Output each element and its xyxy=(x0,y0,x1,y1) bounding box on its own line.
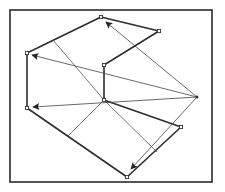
connector-line-1 xyxy=(68,100,104,136)
vertex-center xyxy=(102,98,105,101)
vertex-inner xyxy=(102,63,105,66)
connector-line-0 xyxy=(53,40,104,100)
vertex-top-right xyxy=(157,29,160,32)
connector-lines xyxy=(53,40,157,152)
diagram-frame xyxy=(10,10,212,182)
vertex-bottom-left xyxy=(25,106,28,109)
closed-polygon-path xyxy=(27,17,181,177)
arrow-to-bottom-left xyxy=(33,97,197,107)
connector-line-2 xyxy=(104,100,157,152)
vertex-right xyxy=(179,125,182,128)
diagram-canvas xyxy=(0,0,225,192)
arrow-to-left xyxy=(32,55,197,97)
vertex-top xyxy=(99,15,102,18)
vertex-left xyxy=(25,51,28,54)
vertex-bottom xyxy=(125,175,128,178)
arrow-to-bottom xyxy=(131,97,197,169)
hub-point xyxy=(196,96,199,99)
